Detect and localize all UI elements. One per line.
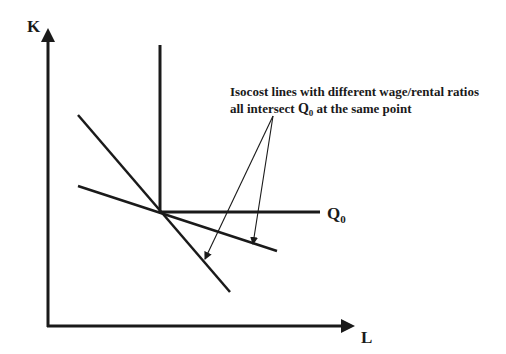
- annotation-line-1: Isocost lines with different wage/rental…: [230, 84, 479, 99]
- isoquant-q0: Q0: [159, 45, 346, 225]
- y-axis-label: K: [27, 17, 41, 36]
- y-axis-arrowhead-icon: [41, 28, 55, 42]
- isoquant-label: Q0: [327, 204, 346, 225]
- x-axis-label: L: [361, 328, 372, 347]
- annotation-line-2: all intersect Q0 at the same point: [230, 101, 412, 118]
- steep-isocost-line: [78, 115, 230, 292]
- x-axis: L: [47, 319, 372, 347]
- annotation: Isocost lines with different wage/rental…: [230, 84, 479, 118]
- pointer-arrow-to-flat-isocost: [253, 116, 273, 244]
- x-axis-arrowhead-icon: [341, 319, 355, 333]
- y-axis: K: [27, 17, 55, 327]
- flat-isocost-line: [78, 186, 277, 251]
- isoquant-diagram: K L Q0 Isocost lines with different wage…: [0, 0, 506, 354]
